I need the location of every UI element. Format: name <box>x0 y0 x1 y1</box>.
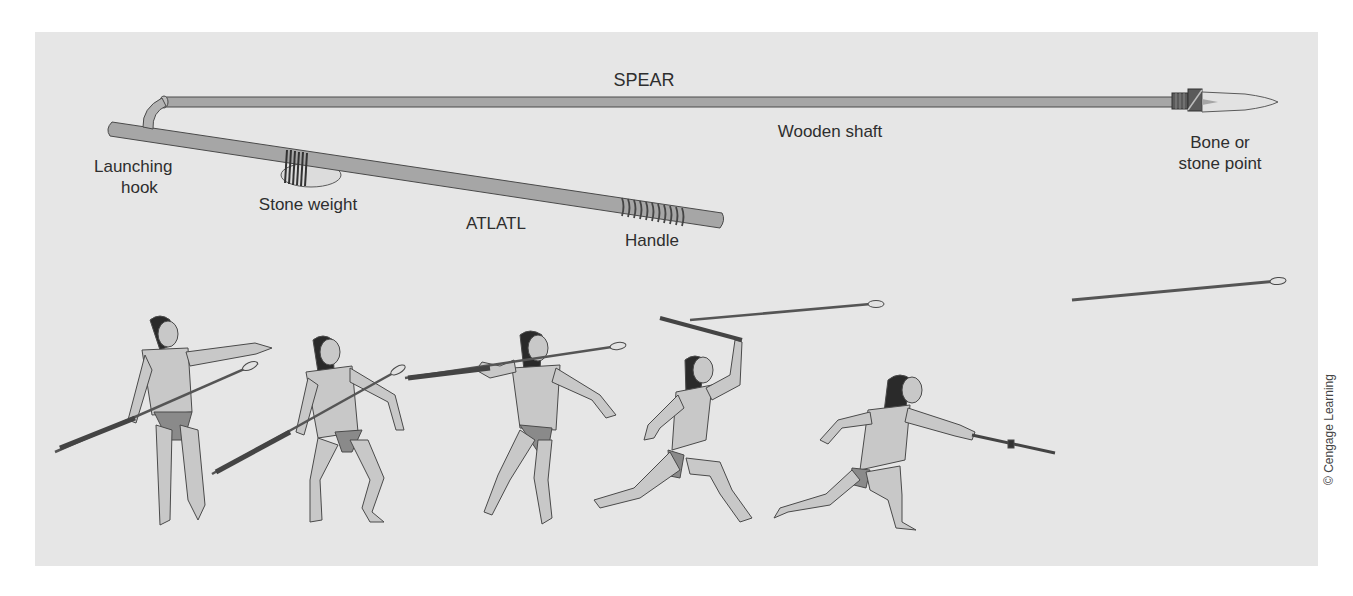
label-hook-line1: Launching <box>94 156 172 177</box>
launching-hook-icon <box>143 98 166 129</box>
label-point-line1: Bone or <box>1150 132 1290 153</box>
figure-step-2 <box>212 336 407 522</box>
released-spear <box>1072 277 1286 300</box>
spear-drawing <box>160 89 1278 112</box>
label-wooden-shaft: Wooden shaft <box>760 121 900 142</box>
label-stone-weight: Stone weight <box>240 194 376 215</box>
throw-sequence <box>55 277 1286 530</box>
copyright-credit: © Cengage Learning <box>1322 374 1336 485</box>
spear-binding <box>1172 89 1202 111</box>
figure-step-1 <box>55 316 272 525</box>
label-point: Bone or stone point <box>1150 132 1290 174</box>
label-handle: Handle <box>612 230 692 251</box>
atlatl-drawing <box>108 98 724 228</box>
label-spear: SPEAR <box>604 70 684 91</box>
figure-step-3 <box>405 331 626 524</box>
label-atlatl: ATLATL <box>458 213 534 234</box>
label-hook-line2: hook <box>94 177 172 198</box>
label-launching-hook: Launching hook <box>94 156 172 198</box>
figure-step-5 <box>774 375 1055 530</box>
label-point-line2: stone point <box>1150 153 1290 174</box>
